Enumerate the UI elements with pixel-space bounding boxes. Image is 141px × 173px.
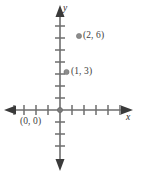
data-point-2-6 xyxy=(76,33,81,38)
x-axis-left-arrow-icon xyxy=(4,106,16,115)
coordinate-axes-svg xyxy=(0,0,141,173)
coordinate-plane-figure: (2, 6) (1, 3) (0, 0) y x xyxy=(0,0,141,173)
data-point-origin xyxy=(57,107,62,112)
data-point-label-1-3: (1, 3) xyxy=(71,67,92,77)
data-point-label-2-6: (2, 6) xyxy=(83,31,104,41)
x-axis-label: x xyxy=(126,113,130,123)
data-point-label-origin: (0, 0) xyxy=(20,117,41,127)
data-point-1-3 xyxy=(64,69,69,74)
y-axis-down-arrow-icon xyxy=(56,159,65,171)
y-axis-label: y xyxy=(63,4,67,14)
